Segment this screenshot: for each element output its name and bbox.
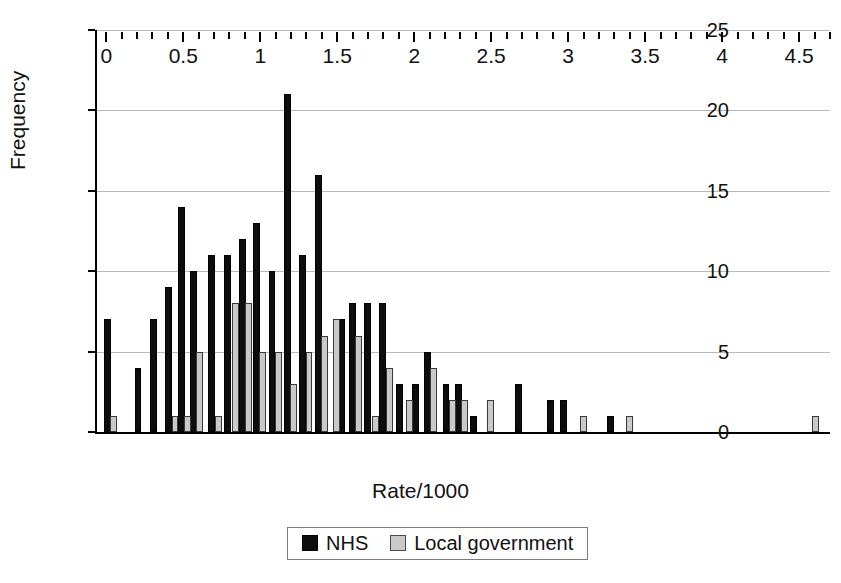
bar-local — [461, 400, 468, 432]
bar-nhs — [135, 368, 142, 432]
bar-local — [372, 416, 379, 432]
bar-nhs — [560, 400, 567, 432]
y-tick — [88, 109, 95, 111]
bar-nhs — [364, 303, 371, 432]
x-tick-minor — [690, 32, 692, 39]
x-tick-minor — [521, 32, 523, 39]
x-tick-minor — [552, 32, 554, 39]
bar-local — [812, 416, 819, 432]
bar-local — [184, 416, 191, 432]
y-tick — [88, 351, 95, 353]
bar-local — [580, 416, 587, 432]
x-tick-major — [798, 32, 800, 42]
x-tick-minor — [829, 32, 831, 39]
y-tick-label: 15 — [707, 181, 729, 201]
x-tick-minor — [613, 32, 615, 39]
x-tick-minor — [814, 32, 816, 39]
x-tick-label: 4 — [716, 45, 728, 66]
x-tick-minor — [444, 32, 446, 39]
x-tick-minor — [583, 32, 585, 39]
x-tick-minor — [429, 32, 431, 39]
x-tick-minor — [752, 32, 754, 39]
x-tick-minor — [598, 32, 600, 39]
bar-local — [232, 303, 239, 432]
bar-local — [626, 416, 633, 432]
bar-nhs — [396, 384, 403, 432]
x-tick-minor — [367, 32, 369, 39]
bar-local — [275, 352, 282, 432]
x-axis-title: Rate/1000 — [0, 479, 841, 503]
x-tick-minor — [198, 32, 200, 39]
x-tick-minor — [352, 32, 354, 39]
x-tick-minor — [629, 32, 631, 39]
x-tick-major — [721, 32, 723, 42]
bar-local — [215, 416, 222, 432]
x-tick-minor — [305, 32, 307, 39]
x-tick-minor — [275, 32, 277, 39]
x-tick-label: 3 — [562, 45, 574, 66]
x-tick-minor — [151, 32, 153, 39]
x-tick-major — [182, 32, 184, 42]
y-tick-label: 5 — [718, 342, 729, 362]
bar-local — [386, 368, 393, 432]
legend-entry[interactable]: Local government — [390, 533, 573, 553]
x-tick-major — [490, 32, 492, 42]
x-tick-label: 0.5 — [169, 45, 198, 66]
bar-local — [321, 336, 328, 432]
legend-entry[interactable]: NHS — [302, 533, 368, 553]
x-tick-minor — [737, 32, 739, 39]
bar-nhs — [607, 416, 614, 432]
y-tick — [88, 29, 95, 31]
bar-nhs — [284, 94, 291, 432]
x-tick-label: 4.5 — [785, 45, 814, 66]
bar-nhs — [515, 384, 522, 432]
x-tick-label: 1.5 — [323, 45, 352, 66]
bar-local — [172, 416, 179, 432]
x-tick-minor — [321, 32, 323, 39]
bar-nhs — [165, 287, 172, 432]
y-tick-label: 20 — [707, 100, 729, 120]
x-tick-minor — [767, 32, 769, 39]
bar-local — [487, 400, 494, 432]
x-tick-minor — [536, 32, 538, 39]
y-tick-label: 10 — [707, 261, 729, 281]
x-tick-major — [644, 32, 646, 42]
bar-nhs — [178, 207, 185, 432]
x-tick-minor — [783, 32, 785, 39]
bar-local — [110, 416, 117, 432]
x-tick-minor — [398, 32, 400, 39]
bar-local — [406, 400, 413, 432]
bar-nhs — [150, 319, 157, 432]
legend: NHSLocal government — [287, 527, 588, 560]
x-tick-label: 2.5 — [477, 45, 506, 66]
y-tick — [88, 270, 95, 272]
x-tick-minor — [506, 32, 508, 39]
x-tick-label: 1 — [254, 45, 266, 66]
x-tick-major — [336, 32, 338, 42]
x-tick-minor — [459, 32, 461, 39]
bar-nhs — [208, 255, 215, 432]
bar-nhs — [412, 384, 419, 432]
x-tick-minor — [213, 32, 215, 39]
x-tick-minor — [290, 32, 292, 39]
x-tick-label: 2 — [408, 45, 420, 66]
x-tick-minor — [136, 32, 138, 39]
y-axis-title: Frequency — [6, 71, 30, 170]
legend-label: NHS — [326, 533, 368, 553]
legend-swatch-nhs — [302, 535, 318, 551]
y-tick — [88, 190, 95, 192]
y-tick-label: 0 — [718, 422, 729, 442]
x-tick-minor — [675, 32, 677, 39]
x-tick-minor — [228, 32, 230, 39]
bar-local — [259, 352, 266, 432]
bar-nhs — [547, 400, 554, 432]
bar-local — [449, 400, 456, 432]
x-tick-major — [259, 32, 261, 42]
bar-local — [290, 384, 297, 432]
y-tick — [88, 431, 95, 433]
x-tick-minor — [121, 32, 123, 39]
x-tick-major — [567, 32, 569, 42]
x-tick-minor — [660, 32, 662, 39]
bar-nhs — [224, 255, 231, 432]
legend-label: Local government — [414, 533, 573, 553]
